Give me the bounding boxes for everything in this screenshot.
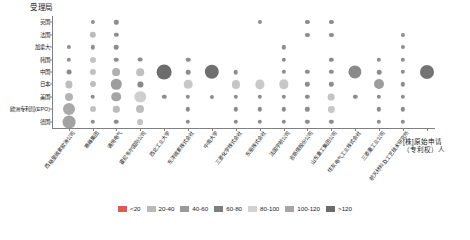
bubble-point[interactable] <box>234 120 238 124</box>
bubble-point[interactable] <box>305 120 309 124</box>
bubble-point[interactable] <box>305 33 309 37</box>
bubble-point[interactable] <box>90 20 94 24</box>
bubble-point[interactable] <box>63 103 75 115</box>
bubble-point[interactable] <box>329 57 333 61</box>
bubble-point[interactable] <box>186 95 190 99</box>
bubble-point[interactable] <box>90 57 96 63</box>
bubble-point[interactable] <box>90 45 94 49</box>
bubble-point[interactable] <box>377 120 381 124</box>
bubble-point[interactable] <box>305 20 309 24</box>
bubble-point[interactable] <box>137 68 145 76</box>
bubble-point[interactable] <box>377 107 381 111</box>
bubble-point[interactable] <box>65 81 72 88</box>
bubble-point[interactable] <box>62 115 75 128</box>
legend-item-1[interactable]: 20-40 <box>147 205 175 212</box>
bubble-point[interactable] <box>89 31 95 37</box>
bubble-point[interactable] <box>66 70 71 75</box>
bubble-point[interactable] <box>136 105 144 113</box>
bubble-point[interactable] <box>111 79 121 89</box>
bubble-point[interactable] <box>234 95 238 99</box>
bubble-point[interactable] <box>234 70 239 75</box>
bubble-point[interactable] <box>420 65 434 79</box>
bubble-point[interactable] <box>377 70 382 75</box>
bubble-point[interactable] <box>401 107 405 111</box>
bubble-point[interactable] <box>401 57 405 61</box>
bubble-point[interactable] <box>137 119 143 125</box>
bubble-point[interactable] <box>258 120 262 124</box>
legend-item-6[interactable]: >120 <box>326 205 352 212</box>
bubble-point[interactable] <box>90 81 96 87</box>
legend-item-4[interactable]: 80-100 <box>248 205 279 212</box>
bubble-point[interactable] <box>258 20 262 24</box>
bubble-point[interactable] <box>186 70 191 75</box>
bubble-point[interactable] <box>258 107 262 111</box>
bubble-point[interactable] <box>234 107 238 111</box>
bubble-point[interactable] <box>65 93 73 101</box>
bubble-point[interactable] <box>281 120 285 124</box>
bubble-point[interactable] <box>113 106 119 112</box>
bubble-point[interactable] <box>374 79 384 89</box>
bubble-point[interactable] <box>329 33 333 37</box>
bubble-point[interactable] <box>401 45 405 49</box>
x-axis-line <box>52 128 435 129</box>
bubble-point[interactable] <box>90 95 95 100</box>
bubble-point[interactable] <box>113 68 121 76</box>
x-tick-mark-5 <box>188 128 189 131</box>
bubble-point[interactable] <box>401 33 405 37</box>
bubble-point[interactable] <box>305 107 309 111</box>
bubble-point[interactable] <box>401 70 405 74</box>
bubble-point[interactable] <box>186 57 191 62</box>
bubble-point[interactable] <box>232 80 240 88</box>
bubble-point[interactable] <box>353 95 357 99</box>
bubble-point[interactable] <box>90 106 96 112</box>
x-axis-title-line2: （专利权）人 <box>403 146 445 154</box>
bubble-point[interactable] <box>329 70 333 74</box>
bubble-point[interactable] <box>114 20 118 24</box>
bubble-point[interactable] <box>138 57 143 62</box>
bubble-point[interactable] <box>401 82 405 86</box>
bubble-point[interactable] <box>114 57 119 62</box>
bubble-point[interactable] <box>258 95 262 99</box>
bubble-point[interactable] <box>255 80 264 89</box>
bubble-point[interactable] <box>138 82 143 87</box>
bubble-point[interactable] <box>329 120 333 124</box>
bubble-point[interactable] <box>89 69 95 75</box>
bubble-point[interactable] <box>67 45 71 49</box>
bubble-point[interactable] <box>305 70 309 74</box>
bubble-point[interactable] <box>281 107 285 111</box>
bubble-point[interactable] <box>205 65 219 79</box>
legend-item-2[interactable]: 40-60 <box>180 205 208 212</box>
bubble-point[interactable] <box>279 80 288 89</box>
bubble-point[interactable] <box>281 95 285 99</box>
bubble-point[interactable] <box>162 95 166 99</box>
bubble-point[interactable] <box>328 93 335 100</box>
bubble-point[interactable] <box>377 95 381 99</box>
bubble-point[interactable] <box>281 70 285 74</box>
legend-item-0[interactable]: <20 <box>118 205 141 212</box>
bubble-point[interactable] <box>305 95 309 99</box>
bubble-point[interactable] <box>186 120 190 124</box>
bubble-point[interactable] <box>157 65 172 80</box>
legend-item-3[interactable]: 60-80 <box>214 205 242 212</box>
bubble-point[interactable] <box>281 45 285 49</box>
bubble-point[interactable] <box>114 45 119 50</box>
bubble-point[interactable] <box>114 119 119 124</box>
bubble-point[interactable] <box>349 65 362 78</box>
bubble-point[interactable] <box>184 80 193 89</box>
bubble-point[interactable] <box>305 82 309 86</box>
bubble-point[interactable] <box>67 57 71 61</box>
bubble-point[interactable] <box>112 92 122 102</box>
bubble-point[interactable] <box>281 57 285 61</box>
bubble-point[interactable] <box>329 20 333 24</box>
bubble-point[interactable] <box>401 120 405 124</box>
bubble-point[interactable] <box>377 57 381 61</box>
bubble-point[interactable] <box>210 95 214 99</box>
bubble-point[interactable] <box>329 82 333 86</box>
bubble-point[interactable] <box>135 91 146 102</box>
bubble-point[interactable] <box>328 106 334 112</box>
legend-item-5[interactable]: 100-120 <box>285 205 320 212</box>
bubble-point[interactable] <box>401 95 405 99</box>
bubble-point[interactable] <box>114 32 118 36</box>
bubble-point[interactable] <box>186 107 190 111</box>
bubble-point[interactable] <box>90 120 94 124</box>
